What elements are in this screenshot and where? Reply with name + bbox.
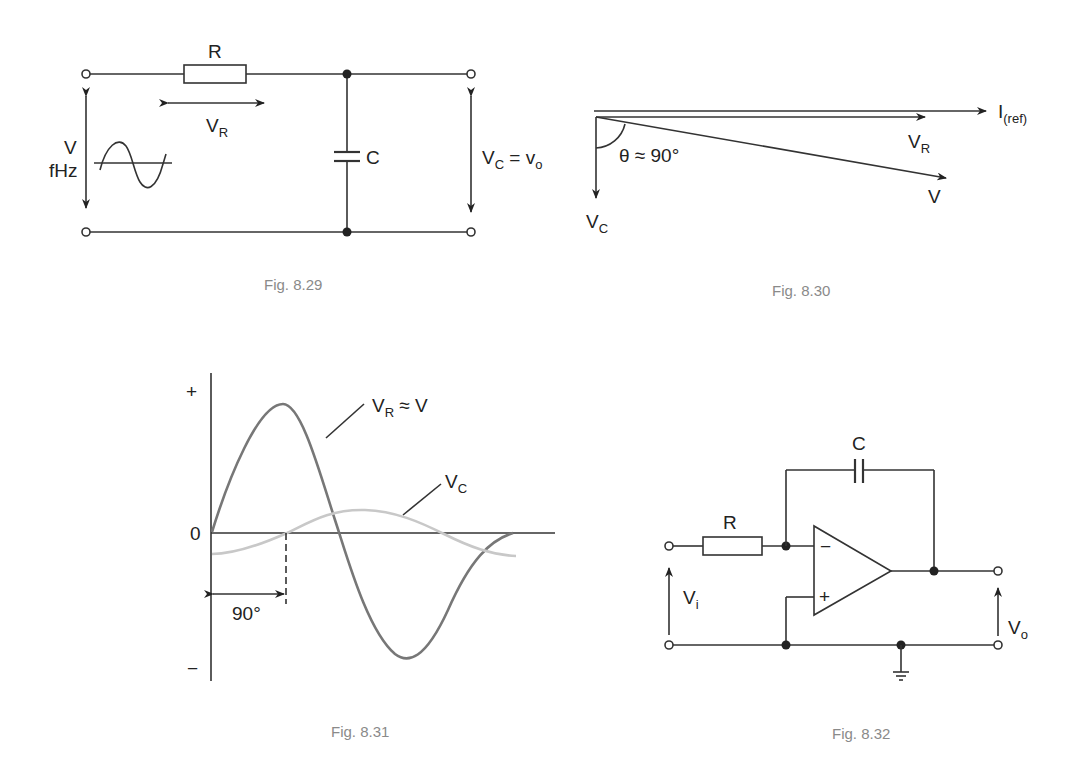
output-terminal: [994, 641, 1002, 649]
label-output: VC = vo: [482, 147, 542, 172]
input-terminal: [82, 70, 90, 78]
output-terminal: [467, 228, 475, 236]
input-terminal: [665, 542, 673, 550]
label-vr: VR: [908, 131, 930, 156]
label-90-degrees: 90°: [232, 603, 261, 624]
caption-fig-8-30: Fig. 8.30: [772, 282, 830, 299]
label-minus: −: [187, 658, 198, 679]
label-c: C: [852, 433, 866, 454]
label-r: R: [208, 41, 222, 62]
label-plus: +: [186, 381, 197, 402]
label-zero: 0: [190, 523, 201, 544]
figure-8-31: + 0 − VR ≈ V VC 90° Fig. 8.31: [186, 373, 555, 740]
label-source-v: V: [64, 137, 77, 158]
label-r: R: [723, 512, 737, 533]
label-vi: Vi: [683, 587, 699, 612]
caption-fig-8-31: Fig. 8.31: [331, 723, 389, 740]
junction-node: [782, 641, 791, 650]
label-i-ref: I(ref): [998, 101, 1027, 126]
label-vc: VC: [445, 471, 467, 496]
label-vc: VC: [586, 211, 608, 236]
label-vr-approx-v: VR ≈ V: [372, 395, 428, 420]
vc-leader-line: [403, 484, 441, 515]
resistor-r: [184, 65, 246, 83]
label-v: V: [928, 186, 941, 207]
label-noninverting-input: +: [819, 586, 830, 607]
input-terminal: [665, 641, 673, 649]
input-terminal: [82, 228, 90, 236]
output-terminal: [467, 70, 475, 78]
label-vr: VR: [206, 115, 228, 140]
sine-wave-icon: [100, 142, 166, 187]
resistor-r: [703, 537, 762, 555]
junction-node: [343, 228, 352, 237]
label-source-freq: fHz: [49, 160, 78, 181]
label-inverting-input: −: [820, 536, 831, 557]
label-vo: Vo: [1008, 617, 1028, 642]
caption-fig-8-29: Fig. 8.29: [264, 276, 322, 293]
caption-fig-8-32: Fig. 8.32: [832, 725, 890, 742]
ground-icon: [893, 672, 909, 680]
vr-leader-line: [326, 404, 364, 438]
figure-8-32: − + C R Vi Vo Fig. 8.32: [665, 433, 1028, 742]
junction-node: [343, 70, 352, 79]
junction-node: [930, 567, 939, 576]
output-terminal: [994, 567, 1002, 575]
label-c: C: [366, 147, 380, 168]
label-angle: θ ≈ 90°: [619, 145, 679, 166]
figure-8-30: I(ref) VR V VC θ ≈ 90° Fig. 8.30: [586, 101, 1027, 299]
figure-8-29: R VR V fHz C VC = vo Fig. 8.29: [49, 41, 542, 293]
